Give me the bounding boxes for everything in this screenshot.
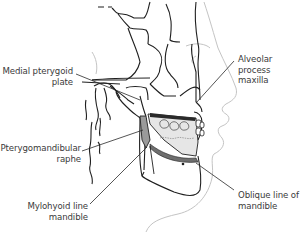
skull-outline xyxy=(82,2,202,196)
label-line: Mylohyoid line xyxy=(27,201,88,212)
label-pterygomandibular-raphe: Pterygomandibular raphe xyxy=(1,143,82,164)
label-line: maxilla xyxy=(238,75,272,86)
label-line: plate xyxy=(2,77,73,88)
label-line: raphe xyxy=(1,154,82,165)
label-oblique-line-of-mandible: Oblique line of mandible xyxy=(238,190,299,211)
label-line: Medial pterygoid xyxy=(2,66,73,77)
label-line: mandible xyxy=(27,212,88,223)
label-mylohyoid-line-mandible: Mylohyoid line mandible xyxy=(27,201,88,222)
label-line: Oblique line of xyxy=(238,190,299,201)
jaw-shaded-region xyxy=(140,113,204,174)
label-line: mandible xyxy=(238,201,299,212)
label-medial-pterygoid-plate: Medial pterygoid plate xyxy=(2,66,73,87)
leader-oblique xyxy=(196,163,234,190)
label-line: process xyxy=(238,65,272,76)
anatomy-figure: Medial pterygoid plate Pterygomandibular… xyxy=(0,0,305,233)
leader-mylohyoid xyxy=(90,147,147,204)
label-line: Alveolar xyxy=(238,54,272,65)
label-alveolar-process-maxilla: Alveolar process maxilla xyxy=(238,54,272,86)
leader-alveolar xyxy=(196,61,234,103)
label-line: Pterygomandibular xyxy=(1,143,82,154)
